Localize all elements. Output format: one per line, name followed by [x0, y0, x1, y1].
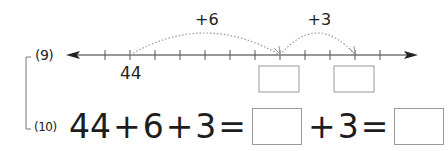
problem-bracket: [26, 57, 31, 129]
equation-row: 44 + 6 + 3 = + 3 =: [69, 106, 448, 146]
number-line-answer-box[interactable]: [259, 66, 299, 92]
operand-3: 3: [195, 107, 216, 146]
problem-9-number: (9): [35, 47, 53, 63]
equals-sign: =: [361, 107, 389, 146]
operand-44: 44: [69, 107, 111, 146]
problem-10-number: (10): [34, 120, 57, 134]
jump-label-plus-3: +3: [308, 10, 332, 29]
answer-box-final[interactable]: [394, 108, 444, 145]
jump-arc: [280, 33, 355, 55]
equals-sign: =: [218, 107, 246, 146]
answer-box-intermediate[interactable]: [252, 108, 302, 145]
jump-label-plus-6: +6: [195, 10, 219, 29]
plus-operator: +: [308, 107, 336, 146]
operand-6: 6: [143, 107, 164, 146]
plus-operator: +: [166, 107, 194, 146]
jump-arrowhead: [349, 46, 355, 54]
operand-3: 3: [338, 107, 359, 146]
number-line-answer-box[interactable]: [334, 66, 374, 92]
start-value-label: 44: [120, 63, 142, 83]
plus-operator: +: [113, 107, 141, 146]
